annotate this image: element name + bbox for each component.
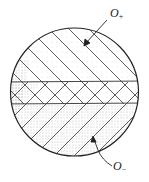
label-o-plus-main: O [110, 6, 119, 20]
sphere-fill [0, 0, 149, 182]
label-o-minus-sub: − [122, 165, 127, 174]
label-o-minus-main: O [113, 159, 122, 173]
label-o-plus-sub: + [119, 12, 124, 21]
label-o-plus: O+ [110, 7, 123, 21]
label-o-minus: O− [113, 160, 126, 174]
diagram-canvas [0, 0, 149, 182]
